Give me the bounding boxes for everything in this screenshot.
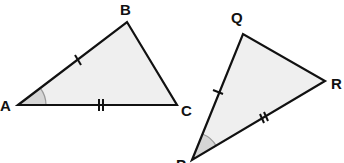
vertex-label-q: Q	[231, 9, 243, 26]
diagram-canvas: A B C P Q R	[0, 0, 344, 163]
vertex-label-a: A	[0, 97, 11, 114]
vertex-label-b: B	[120, 1, 131, 18]
triangle-pqr	[192, 34, 325, 160]
vertex-label-c: C	[181, 102, 192, 119]
vertex-label-r: R	[331, 75, 342, 92]
triangle-abc	[18, 22, 177, 111]
vertex-label-p: P	[176, 156, 186, 163]
